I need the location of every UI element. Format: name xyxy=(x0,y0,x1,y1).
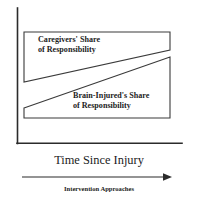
figure-container: Caregivers' Share of Responsibility Brai… xyxy=(0,0,198,202)
intervention-arrow-head-icon xyxy=(163,173,172,181)
x-axis-caption: Time Since Injury xyxy=(54,153,145,167)
responsibility-shift-diagram: Caregivers' Share of Responsibility Brai… xyxy=(0,0,198,202)
brain-injured-label-line2: of Responsibility xyxy=(73,101,131,110)
caregivers-label-line1: Caregivers' Share xyxy=(38,35,100,44)
intervention-caption: Intervention Approaches xyxy=(64,185,134,192)
brain-injured-label-line1: Brain-Injured's Share xyxy=(73,91,150,100)
caregivers-label-line2: of Responsibility xyxy=(38,45,96,54)
